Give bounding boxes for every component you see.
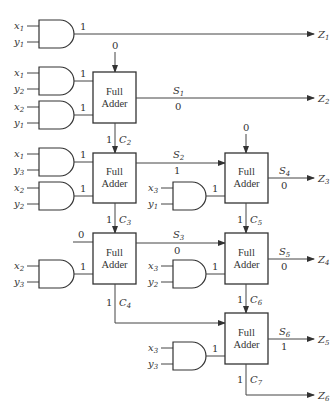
gate-output-value: 1 (80, 68, 86, 79)
fa6-label-adder: Adder (233, 339, 260, 350)
input-x3-label: x3 (148, 182, 159, 195)
fa2-sum-value: 1 (174, 165, 180, 176)
fa1-carry-in-value: 0 (112, 40, 118, 51)
fa3-label-adder: Adder (101, 259, 128, 270)
input-y2-label: y2 (147, 276, 159, 289)
fa2-carry-label: C3 (119, 214, 132, 227)
gate-output-value: 1 (80, 149, 86, 160)
output-z5-label: Z5 (317, 334, 330, 347)
fa5-carry-value: 1 (237, 294, 243, 305)
fa3-carry-label: C4 (119, 297, 131, 310)
fa4-carry-in-value: 0 (243, 122, 249, 133)
multiplier-circuit-diagram: x1 y1 1 Z1 x1 y2 1 x2 y1 1 x1 y3 1 x2 y2… (0, 0, 336, 416)
input-y3-label: y3 (147, 358, 159, 371)
fa6-carry-label: C7 (250, 374, 263, 387)
fa2-label-full: Full (106, 166, 123, 177)
fa1-sum-value: 0 (175, 101, 181, 112)
fa6-carry-value: 1 (237, 374, 243, 385)
gate-output-value: 1 (80, 21, 86, 32)
input-x1-label: x1 (14, 67, 24, 80)
fa2-carry-value: 1 (106, 214, 112, 225)
fa5-sum-value: 0 (281, 261, 287, 272)
fa5-carry-label: C6 (250, 294, 263, 307)
input-x3-label: x3 (148, 260, 159, 273)
gate-output-value: 1 (212, 261, 218, 272)
fa3-extra-input-value: 0 (78, 229, 84, 240)
fa4-label-adder: Adder (233, 178, 260, 189)
input-y2-label: y2 (13, 83, 25, 96)
input-y2-label: y2 (13, 198, 25, 211)
fa3-sum-value: 0 (174, 245, 180, 256)
input-x1-label: x1 (14, 148, 24, 161)
fa5-sum-label: S5 (279, 246, 291, 259)
output-z6-label: Z6 (317, 390, 330, 403)
gate-output-value: 1 (80, 183, 86, 194)
output-z2-label: Z2 (317, 93, 330, 106)
gate-output-value: 1 (80, 261, 86, 272)
fa4-sum-value: 0 (281, 180, 287, 191)
fa5-label-adder: Adder (233, 259, 260, 270)
input-y1-label: y1 (13, 117, 24, 130)
fa1-label-full: Full (106, 86, 123, 97)
input-y1-label: y1 (13, 36, 24, 49)
input-x3-label: x3 (148, 342, 159, 355)
output-z4-label: Z4 (317, 254, 329, 267)
input-x2-label: x2 (14, 182, 25, 195)
input-x1-label: x1 (14, 20, 24, 33)
fa2-label-adder: Adder (101, 178, 128, 189)
fa6-sum-label: S6 (279, 326, 291, 339)
output-z3-label: Z3 (317, 173, 330, 186)
fa4-carry-value: 1 (237, 214, 243, 225)
fa4-sum-label: S4 (279, 165, 290, 178)
gate-output-value: 1 (212, 343, 218, 354)
fa3-carry-value: 1 (106, 297, 112, 308)
fa1-carry-label: C2 (119, 134, 132, 147)
fa6-label-full: Full (238, 327, 255, 338)
input-y3-label: y3 (13, 276, 25, 289)
fa3-label-full: Full (106, 247, 123, 258)
input-y3-label: y3 (13, 164, 25, 177)
gate-output-value: 1 (80, 102, 86, 113)
fa4-label-full: Full (238, 166, 255, 177)
output-z1-label: Z1 (317, 29, 329, 42)
fa4-carry-label: C5 (250, 214, 263, 227)
fa5-label-full: Full (238, 247, 255, 258)
fa3-sum-label: S3 (173, 229, 185, 242)
gate-output-value: 1 (212, 183, 218, 194)
fa6-sum-value: 1 (281, 341, 287, 352)
fa1-label-adder: Adder (101, 98, 128, 109)
input-x2-label: x2 (14, 260, 25, 273)
fa1-carry-value: 1 (106, 134, 112, 145)
input-y1-label: y1 (147, 198, 158, 211)
and-gate-x1-y1 (27, 20, 314, 48)
fa1-sum-label: S1 (173, 85, 184, 98)
input-x2-label: x2 (14, 101, 25, 114)
fa2-sum-label: S2 (173, 149, 185, 162)
